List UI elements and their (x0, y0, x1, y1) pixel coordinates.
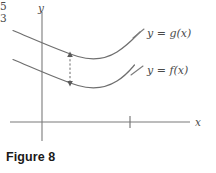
y-axis-label: y (38, 3, 44, 14)
figure-caption: Figure 8 (6, 150, 55, 164)
curve-f (13, 60, 135, 88)
x-axis-label: x (195, 117, 201, 128)
curve-label-g-equals: = (157, 27, 166, 40)
figure-container: y x 5 3 y = g(x) y = f(x) Figure 8 (0, 0, 216, 173)
curve-g (13, 31, 140, 59)
curve-label-f-expr: f(x) (169, 64, 188, 77)
curve-label-f-equals: = (157, 64, 166, 77)
curve-label-g-expr: g(x) (169, 27, 191, 40)
curve-label-g: y = g(x) (147, 28, 191, 39)
graph-plot-area (0, 0, 216, 173)
curve-label-f: y = f(x) (147, 65, 188, 76)
leader-line-g (133, 29, 144, 38)
